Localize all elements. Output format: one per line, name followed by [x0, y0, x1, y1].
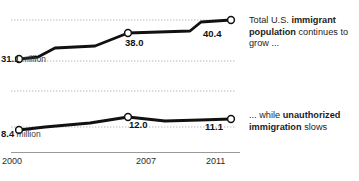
caption-unauthorized-immigration: ... while unauthorized immigration slows	[249, 110, 359, 133]
bottom-chart-end-value: 11.1	[205, 122, 223, 132]
top-chart-svg	[0, 14, 240, 76]
bottom-chart-start-label: 8.4 million	[1, 129, 41, 139]
x-axis-tick-labels: 2000 2007 2011	[0, 155, 245, 169]
top-chart-mid-value: 38.0	[125, 38, 144, 48]
caption-top-lead: Total U.S.	[249, 15, 291, 25]
chart-immigrant-population	[0, 14, 240, 76]
caption-immigrant-population: Total U.S. immigrant population continue…	[249, 15, 359, 50]
bottom-chart-start-unit: million	[14, 129, 40, 139]
top-chart-start-value: 31.1	[1, 53, 20, 64]
top-chart-end-value: 40.4	[203, 29, 222, 39]
top-marker-2011	[228, 17, 235, 24]
top-chart-start-unit: million	[20, 54, 46, 64]
scan-artifact-bottom	[0, 175, 359, 181]
bottom-marker-2011	[228, 116, 235, 123]
x-axis-tick-2011: 2011	[206, 157, 225, 166]
infographic-root: 31.1 million 38.0 40.4 8.4 million 12.0 …	[0, 0, 359, 181]
top-chart-start-label: 31.1 million	[1, 54, 46, 64]
top-marker-2007	[125, 30, 132, 37]
x-axis-rule	[11, 152, 240, 153]
caption-bottom-lead: ... while	[249, 110, 283, 120]
bottom-chart-start-value: 8.4	[1, 128, 14, 139]
bottom-chart-mid-value: 12.0	[129, 120, 148, 130]
x-axis-tick-2000: 2000	[2, 157, 22, 166]
caption-bottom-tail: slows	[302, 122, 328, 132]
scan-artifact-top	[0, 0, 359, 6]
x-axis-tick-2007: 2007	[136, 157, 156, 166]
